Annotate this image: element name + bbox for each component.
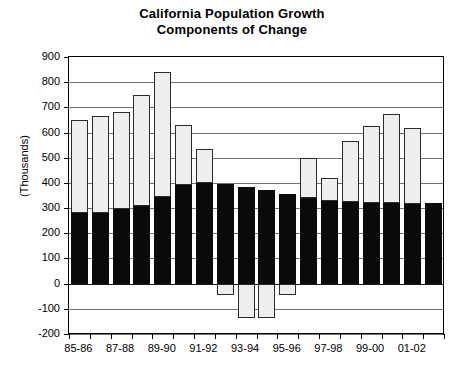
- x-tick-mark: [194, 334, 195, 339]
- bar-segment-natural-increase[interactable]: [300, 198, 317, 284]
- x-tick-mark: [319, 334, 320, 339]
- bar-segment-net-migration[interactable]: [196, 149, 213, 183]
- y-tick-label-300: 300: [20, 202, 60, 213]
- y-tick-label-500: 500: [20, 152, 60, 163]
- bar-group[interactable]: [257, 57, 278, 334]
- bar-segment-natural-increase[interactable]: [363, 203, 380, 284]
- x-tick-label-99-00: 99-00: [347, 342, 393, 354]
- bar-segment-natural-increase[interactable]: [196, 183, 213, 284]
- x-tick-mark: [444, 334, 445, 339]
- bar-segment-net-migration[interactable]: [383, 114, 400, 203]
- bar-segment-natural-increase[interactable]: [425, 203, 442, 284]
- bar-segment-natural-increase[interactable]: [71, 213, 88, 284]
- bar-segment-net-migration[interactable]: [113, 112, 130, 209]
- y-tick-label-100: 100: [20, 252, 60, 263]
- bar-segment-natural-increase[interactable]: [175, 185, 192, 283]
- y-tick-label-900: 900: [20, 51, 60, 62]
- bar-group[interactable]: [90, 57, 111, 334]
- x-tick-label-85-86: 85-86: [55, 342, 101, 354]
- y-tick-label-600: 600: [20, 127, 60, 138]
- bar-segment-net-migration[interactable]: [71, 120, 88, 213]
- x-tick-mark: [402, 334, 403, 339]
- bar-segment-natural-increase[interactable]: [133, 206, 150, 284]
- bar-group[interactable]: [402, 57, 423, 334]
- bar-segment-natural-increase[interactable]: [92, 213, 109, 284]
- bar-segment-natural-increase[interactable]: [342, 202, 359, 284]
- bar-segment-natural-increase[interactable]: [154, 197, 171, 284]
- x-tick-label-01-02: 01-02: [389, 342, 435, 354]
- bar-segment-natural-increase[interactable]: [404, 204, 421, 284]
- x-tick-label-87-88: 87-88: [97, 342, 143, 354]
- x-tick-mark: [277, 334, 278, 339]
- x-tick-mark: [69, 334, 70, 339]
- chart-title-line1: California Population Growth: [0, 6, 464, 22]
- y-tick-label-200: 200: [20, 227, 60, 238]
- y-tick-label-700: 700: [20, 101, 60, 112]
- bar-group[interactable]: [319, 57, 340, 334]
- bar-segment-net-migration[interactable]: [363, 126, 380, 203]
- x-tick-mark: [382, 334, 383, 339]
- bar-segment-natural-increase[interactable]: [217, 184, 234, 283]
- bar-segment-net-migration[interactable]: [238, 284, 255, 318]
- x-tick-mark: [132, 334, 133, 339]
- bar-group[interactable]: [69, 57, 90, 334]
- bar-segment-net-migration[interactable]: [133, 95, 150, 206]
- chart-title-line2: Components of Change: [0, 22, 464, 38]
- y-tick-label-800: 800: [20, 76, 60, 87]
- bar-group[interactable]: [111, 57, 132, 334]
- x-tick-label-89-90: 89-90: [139, 342, 185, 354]
- x-tick-mark: [298, 334, 299, 339]
- x-tick-mark: [111, 334, 112, 339]
- y-tick-label-400: 400: [20, 177, 60, 188]
- bar-group[interactable]: [277, 57, 298, 334]
- bar-segment-net-migration[interactable]: [92, 116, 109, 213]
- x-tick-mark: [257, 334, 258, 339]
- bar-segment-net-migration[interactable]: [175, 125, 192, 185]
- bar-group[interactable]: [423, 57, 444, 334]
- bar-segment-natural-increase[interactable]: [383, 203, 400, 284]
- bar-segment-net-migration[interactable]: [321, 178, 338, 201]
- x-tick-mark: [236, 334, 237, 339]
- bar-group[interactable]: [236, 57, 257, 334]
- bar-group[interactable]: [132, 57, 153, 334]
- bar-segment-natural-increase[interactable]: [113, 209, 130, 283]
- bar-group[interactable]: [382, 57, 403, 334]
- x-tick-mark: [423, 334, 424, 339]
- bar-group[interactable]: [361, 57, 382, 334]
- bar-segment-net-migration[interactable]: [154, 72, 171, 197]
- bar-segment-natural-increase[interactable]: [258, 190, 275, 283]
- bar-group[interactable]: [298, 57, 319, 334]
- x-tick-label-91-92: 91-92: [180, 342, 226, 354]
- bar-segment-natural-increase[interactable]: [279, 194, 296, 283]
- x-tick-mark: [173, 334, 174, 339]
- bar-segment-net-migration[interactable]: [279, 284, 296, 295]
- x-tick-mark: [215, 334, 216, 339]
- bar-group[interactable]: [173, 57, 194, 334]
- bar-group[interactable]: [215, 57, 236, 334]
- bar-segment-net-migration[interactable]: [342, 141, 359, 201]
- x-tick-mark: [152, 334, 153, 339]
- y-tick-label--200: -200: [20, 328, 60, 339]
- x-tick-label-97-98: 97-98: [305, 342, 351, 354]
- bar-segment-net-migration[interactable]: [300, 158, 317, 198]
- bar-group[interactable]: [340, 57, 361, 334]
- bar-series-layer: [69, 57, 444, 334]
- bar-segment-natural-increase[interactable]: [321, 201, 338, 284]
- x-tick-label-95-96: 95-96: [264, 342, 310, 354]
- y-tick-label-0: 0: [20, 278, 60, 289]
- bar-segment-net-migration[interactable]: [404, 128, 421, 204]
- bar-group[interactable]: [152, 57, 173, 334]
- x-tick-mark: [361, 334, 362, 339]
- plot-area: [68, 57, 443, 334]
- chart-container: California Population Growth Components …: [0, 0, 464, 366]
- chart-title: California Population Growth Components …: [0, 6, 464, 38]
- bar-segment-net-migration[interactable]: [217, 284, 234, 295]
- bar-segment-natural-increase[interactable]: [238, 187, 255, 284]
- bar-segment-net-migration[interactable]: [258, 284, 275, 318]
- x-tick-label-93-94: 93-94: [222, 342, 268, 354]
- x-tick-mark: [90, 334, 91, 339]
- x-tick-mark: [340, 334, 341, 339]
- bar-group[interactable]: [194, 57, 215, 334]
- y-tick-label--100: -100: [20, 303, 60, 314]
